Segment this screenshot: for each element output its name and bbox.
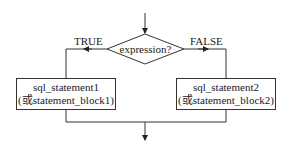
- false-label: FALSE: [190, 35, 223, 47]
- merge-line: [66, 110, 226, 122]
- true-statement-box: sql_statement1 (或statement_block1): [16, 78, 116, 110]
- false-statement-box: sql_statement2 (或statement_block2): [176, 78, 276, 110]
- false-branch-line: [184, 49, 226, 78]
- flowchart-connectors: [0, 0, 290, 148]
- false-statement-line1: sql_statement2: [193, 81, 259, 94]
- true-statement-line2: (或statement_block1): [18, 94, 114, 107]
- true-statement-line1: sql_statement1: [33, 81, 99, 94]
- condition-label: expression?: [107, 43, 184, 55]
- false-statement-line2: (或statement_block2): [178, 94, 274, 107]
- if-else-flowchart: TRUE FALSE expression? sql_statement1 (或…: [0, 0, 290, 148]
- true-branch-line: [66, 49, 107, 78]
- true-label: TRUE: [74, 35, 103, 47]
